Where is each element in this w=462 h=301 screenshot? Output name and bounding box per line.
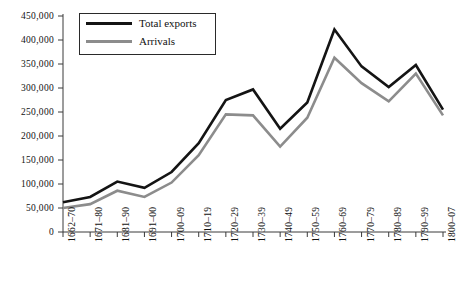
x-axis-tick-label: 1662–70 [67, 207, 77, 242]
y-axis-tick-label: 200,000 [0, 131, 54, 141]
x-axis-tick-label: 1800–07 [447, 207, 457, 242]
legend-swatch-total-exports [86, 22, 132, 25]
y-axis-tick-label: 100,000 [0, 179, 54, 189]
x-axis-tick-label: 1790–99 [420, 207, 430, 242]
x-axis-tick-label: 1720–29 [230, 207, 240, 242]
data-series-layer [63, 29, 443, 208]
x-axis-tick-label: 1710–19 [203, 207, 213, 242]
x-axis-tick-label: 1730–39 [257, 207, 267, 242]
x-axis-tick-label: 1750–59 [311, 207, 321, 242]
y-axis-tick-label: 350,000 [0, 59, 54, 69]
chart-legend: Total exports Arrivals [79, 13, 216, 55]
x-axis-tick-label: 1691–00 [148, 207, 158, 242]
y-axis-tick-label: 50,000 [0, 203, 54, 213]
y-axis-tick-label: 400,000 [0, 35, 54, 45]
x-axis-tick-label: 1700–09 [176, 207, 186, 242]
x-axis-tick-label: 1671–80 [94, 207, 104, 242]
x-axis-tick-label: 1740–49 [284, 207, 294, 242]
x-axis-tick-label: 1760–69 [338, 207, 348, 242]
legend-item-arrivals: Arrivals [80, 32, 215, 50]
y-axis-tick-label: 150,000 [0, 155, 54, 165]
plot-area [0, 0, 462, 301]
x-axis-tick-label: 1681–90 [121, 207, 131, 242]
y-axis-tick-label: 300,000 [0, 83, 54, 93]
legend-item-total-exports: Total exports [80, 14, 215, 32]
y-axis-tick-label: 0 [0, 227, 54, 237]
line-chart: 050,000100,000150,000200,000250,000300,0… [0, 0, 462, 301]
legend-swatch-arrivals [86, 40, 132, 43]
y-axis-tick-label: 450,000 [0, 11, 54, 21]
series-line-arrivals [63, 58, 443, 208]
x-axis-tick-label: 1780–89 [393, 207, 403, 242]
x-axis-tick-label: 1770–79 [366, 207, 376, 242]
x-axis-ticks [63, 232, 443, 237]
legend-label-arrivals: Arrivals [139, 36, 175, 47]
y-axis-ticks [58, 16, 63, 232]
legend-label-total-exports: Total exports [139, 18, 197, 29]
y-axis-tick-label: 250,000 [0, 107, 54, 117]
